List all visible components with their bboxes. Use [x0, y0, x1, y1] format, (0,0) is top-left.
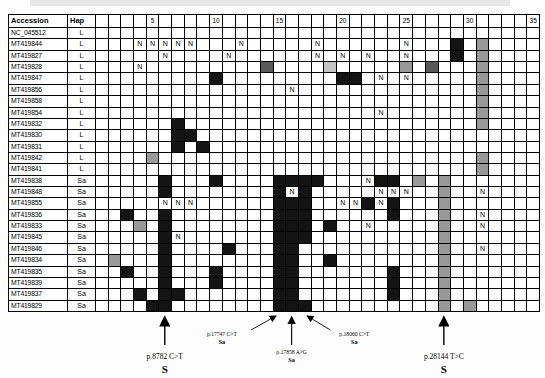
grid-cell [147, 221, 160, 232]
hap-cell: L [68, 39, 96, 50]
grid-cell [109, 119, 122, 130]
grid-cell [159, 164, 172, 175]
grid-cell [324, 108, 337, 119]
grid-cell [248, 142, 261, 153]
grid-cell-n: N [375, 187, 388, 198]
grid-cell [413, 39, 426, 50]
grid-cell [515, 51, 528, 62]
grid-cell [159, 255, 172, 266]
grid-cell [147, 96, 160, 107]
grid-cell [96, 255, 109, 266]
grid-cell [134, 73, 147, 84]
grid-cell [489, 267, 502, 278]
grid-cell [197, 39, 210, 50]
grid-cell [274, 85, 287, 96]
grid-cell [337, 108, 350, 119]
grid-cell [388, 62, 401, 73]
grid-cell [375, 142, 388, 153]
grid-cell [527, 289, 540, 300]
hap-cell: Sa [68, 198, 96, 209]
grid-cell [515, 255, 528, 266]
grid-cell [527, 164, 540, 175]
grid-cell [210, 62, 223, 73]
grid-cell [210, 289, 223, 300]
grid-cell [400, 62, 413, 73]
hap-cell: Sa [68, 210, 96, 221]
grid-cell [96, 210, 109, 221]
grid-cell [464, 108, 477, 119]
grid-cell [413, 96, 426, 107]
top-edge-artifact [30, 0, 510, 6]
grid-cell [274, 130, 287, 141]
grid-cell [388, 267, 401, 278]
grid-cell [502, 278, 515, 289]
grid-cell [388, 39, 401, 50]
grid-cell [210, 267, 223, 278]
grid-cell [121, 85, 134, 96]
grid-cell [185, 62, 198, 73]
grid-cell [324, 39, 337, 50]
grid-cell [324, 210, 337, 221]
col-label-6 [159, 15, 172, 28]
grid-cell [274, 153, 287, 164]
grid-cell [324, 85, 337, 96]
grid-cell [261, 28, 274, 39]
grid-cell [185, 130, 198, 141]
grid-cell [185, 176, 198, 187]
grid-cell [248, 278, 261, 289]
grid-cell [324, 51, 337, 62]
grid-cell-n: N [477, 221, 490, 232]
grid-cell [451, 142, 464, 153]
grid-cell [197, 164, 210, 175]
grid-cell [337, 96, 350, 107]
grid-cell [172, 28, 185, 39]
grid-cell [312, 96, 325, 107]
grid-cell [121, 187, 134, 198]
grid-cell [464, 176, 477, 187]
grid-cell [324, 176, 337, 187]
grid-cell [388, 176, 401, 187]
grid-cell [362, 244, 375, 255]
grid-cell [274, 176, 287, 187]
grid-cell [413, 119, 426, 130]
accession-cell: MT419827 [9, 51, 68, 62]
grid-cell [489, 278, 502, 289]
grid-cell [96, 51, 109, 62]
grid-cell [426, 119, 439, 130]
grid-cell [400, 153, 413, 164]
grid-cell-n: N [147, 39, 160, 50]
grid-cell [477, 153, 490, 164]
grid-cell [439, 62, 452, 73]
grid-cell [464, 232, 477, 243]
hap-cell: Sa [68, 255, 96, 266]
grid-cell [223, 73, 236, 84]
grid-cell [312, 278, 325, 289]
grid-cell [477, 28, 490, 39]
grid-cell [197, 255, 210, 266]
grid-cell [274, 62, 287, 73]
grid-cell [489, 85, 502, 96]
grid-cell [299, 73, 312, 84]
accession-cell: MT419833 [9, 221, 68, 232]
grid-cell [134, 142, 147, 153]
grid-cell [413, 244, 426, 255]
grid-cell [261, 119, 274, 130]
grid-cell [96, 187, 109, 198]
hap-header: Hap [68, 15, 96, 28]
grid-cell [477, 85, 490, 96]
grid-cell [439, 96, 452, 107]
grid-cell [489, 221, 502, 232]
grid-cell [527, 73, 540, 84]
grid-cell [121, 244, 134, 255]
grid-cell [197, 267, 210, 278]
grid-cell [451, 96, 464, 107]
grid-cell [413, 153, 426, 164]
grid-cell [477, 39, 490, 50]
grid-cell [527, 119, 540, 130]
grid-cell [172, 176, 185, 187]
grid-cell [274, 278, 287, 289]
grid-cell [350, 278, 363, 289]
grid-cell [109, 176, 122, 187]
grid-cell [248, 28, 261, 39]
grid-cell [426, 221, 439, 232]
